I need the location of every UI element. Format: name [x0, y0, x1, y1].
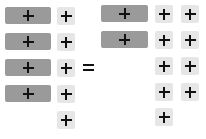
- x-tile: [101, 31, 148, 48]
- plus-icon: [159, 35, 170, 46]
- plus-icon: [185, 87, 196, 98]
- plus-icon: [185, 61, 196, 72]
- plus-icon: [23, 36, 34, 47]
- unit-tile: [57, 33, 75, 51]
- x-tile: [5, 85, 51, 102]
- unit-tile: [155, 83, 173, 101]
- unit-tile: [181, 83, 199, 101]
- x-tile: [5, 59, 51, 76]
- unit-tile: [181, 5, 199, 23]
- plus-icon: [61, 115, 72, 126]
- plus-icon: [23, 88, 34, 99]
- unit-tile: [57, 111, 75, 129]
- x-tile: [101, 5, 148, 22]
- plus-icon: [159, 112, 170, 123]
- plus-icon: [159, 87, 170, 98]
- unit-tile: [57, 59, 75, 77]
- unit-tile: [155, 57, 173, 75]
- plus-icon: [23, 10, 34, 21]
- unit-tile: [57, 7, 75, 25]
- plus-icon: [159, 61, 170, 72]
- unit-tile: [155, 31, 173, 49]
- unit-tile: [57, 85, 75, 103]
- plus-icon: [119, 8, 130, 19]
- unit-tile: [155, 108, 173, 126]
- plus-icon: [61, 89, 72, 100]
- x-tile: [5, 7, 51, 24]
- plus-icon: [61, 37, 72, 48]
- plus-icon: [159, 9, 170, 20]
- equals-sign: =: [83, 63, 94, 72]
- unit-tile: [181, 31, 199, 49]
- x-tile: [5, 33, 51, 50]
- plus-icon: [61, 63, 72, 74]
- plus-icon: [185, 35, 196, 46]
- plus-icon: [61, 11, 72, 22]
- diagram-title: Algebra tiles equation: [0, 0, 1, 1]
- plus-icon: [23, 62, 34, 73]
- plus-icon: [119, 34, 130, 45]
- unit-tile: [155, 5, 173, 23]
- plus-icon: [185, 9, 196, 20]
- unit-tile: [181, 57, 199, 75]
